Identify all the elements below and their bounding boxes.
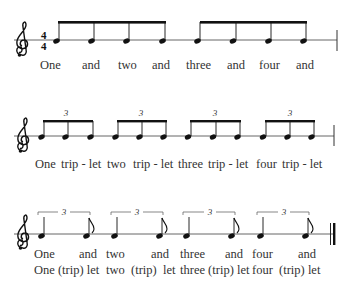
treble-clef-icon [17,22,28,57]
lyric: and [296,58,314,73]
lyric: trip - let [208,157,248,172]
lyric: four [256,157,277,172]
svg-text:3: 3 [212,108,218,118]
lyric: and [298,247,316,262]
svg-text:3: 3 [281,207,287,217]
lyric: four [259,58,280,73]
lyric: trip - let [282,157,322,172]
lyric: two (trip) let [106,263,175,278]
beamed-group [52,21,166,45]
time-sig-bottom: 4 [41,40,47,52]
time-signature: 4 4 [41,29,47,52]
lyric: and [79,247,97,262]
lyric: and [151,247,169,262]
swing-group: 3 [37,207,94,240]
treble-clef-icon [18,215,29,250]
svg-text:3: 3 [287,108,293,118]
swing-group: 3 [182,207,239,240]
lyric: three [186,58,211,73]
lyric: One [34,247,55,262]
lyric: three [178,157,203,172]
lyric: three (trip) let [180,263,249,278]
lyric: One [40,58,61,73]
lyric: and [152,58,170,73]
lyric: One (trip) let [34,263,99,278]
svg-text:3: 3 [63,108,69,118]
lyric: One [35,157,56,172]
music-score: 4 4 [0,0,355,288]
row-swing: 3 3 3 [14,207,335,250]
lyric: and [82,58,100,73]
swing-group: 3 [110,207,167,240]
lyric: two [118,58,137,73]
row-eighths: 4 4 [14,21,337,57]
row-triplets: 3 3 3 [14,108,334,153]
lyric: and [227,58,245,73]
svg-text:3: 3 [207,207,213,217]
lyric: four (trip) let [252,263,320,278]
lyric: two [106,247,125,262]
lyric: three [180,247,205,262]
svg-text:3: 3 [138,108,144,118]
lyric: two [107,157,126,172]
treble-clef-icon [18,118,29,153]
lyric: trip - let [61,157,101,172]
lyric: four [252,247,273,262]
svg-text:3: 3 [134,207,140,217]
beamed-group [193,21,307,45]
lyric: and [225,247,243,262]
svg-text:3: 3 [61,207,67,217]
swing-group: 3 [256,207,313,240]
lyric: trip - let [133,157,173,172]
